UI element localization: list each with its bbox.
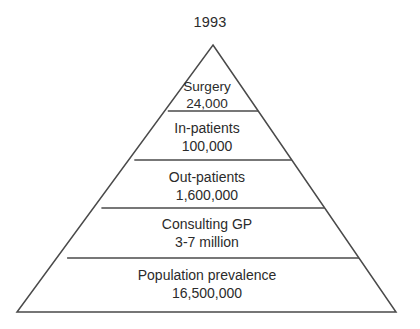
tier-value-text: 1,600,000 — [0, 187, 414, 205]
tier-value-text: 24,000 — [0, 95, 414, 112]
pyramid-tier-in-patients: In-patients 100,000 — [0, 120, 414, 156]
tier-value-text: 3-7 million — [0, 234, 414, 252]
pyramid-tier-consulting-gp: Consulting GP 3-7 million — [0, 216, 414, 252]
tier-value-text: 16,500,000 — [0, 285, 414, 303]
pyramid-tier-population-prevalence: Population prevalence 16,500,000 — [0, 267, 414, 303]
tier-label-text: In-patients — [0, 120, 414, 138]
pyramid-tier-out-patients: Out-patients 1,600,000 — [0, 169, 414, 205]
tier-label-text: Consulting GP — [0, 216, 414, 234]
tier-value-text: 100,000 — [0, 138, 414, 156]
pyramid-chart-figure: 1993 Surgery 24,000 In-patients 100,000 … — [0, 0, 420, 329]
tier-label-text: Surgery — [0, 78, 414, 95]
tier-label-text: Out-patients — [0, 169, 414, 187]
tier-label-text: Population prevalence — [0, 267, 414, 285]
pyramid-tier-surgery: Surgery 24,000 — [0, 78, 414, 113]
